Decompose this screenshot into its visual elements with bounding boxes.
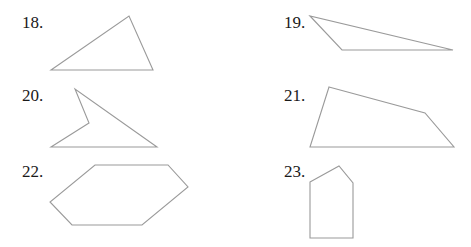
figures [0, 0, 471, 247]
quadrilateral-21 [310, 87, 454, 147]
quadrilateral-20 [51, 89, 157, 147]
hexagon-22 [50, 165, 188, 225]
triangle-19 [310, 16, 453, 50]
pentagon-23 [310, 166, 353, 238]
triangle-18 [51, 16, 153, 70]
